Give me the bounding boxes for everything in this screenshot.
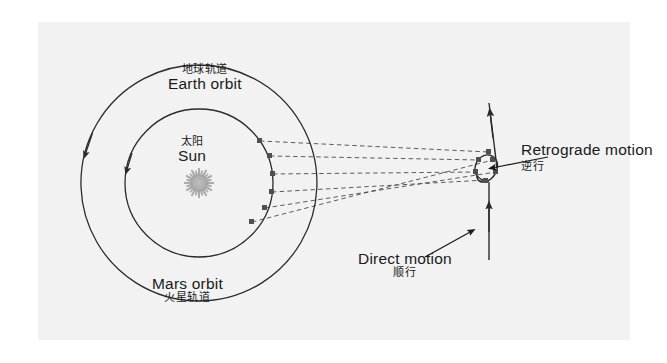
sun-disc-icon bbox=[191, 175, 208, 192]
earth-marker bbox=[269, 189, 274, 194]
sun-label: 太阳 Sun bbox=[178, 136, 206, 164]
retrograde-motion-label-cn: 逆行 bbox=[521, 161, 653, 173]
mars-apparent-marker bbox=[486, 149, 491, 154]
earth-marker bbox=[257, 138, 262, 143]
earth-orbit-label: 地球轨道 Earth orbit bbox=[168, 64, 242, 92]
sun-group bbox=[184, 168, 214, 198]
mars-apparent-marker bbox=[473, 169, 478, 174]
mars-orbit-direction-arrow bbox=[85, 133, 93, 155]
upper-motion-arrow bbox=[490, 112, 493, 138]
earth-marker bbox=[267, 153, 272, 158]
direct-motion-label: Direct motion 顺行 bbox=[358, 251, 452, 279]
sun-label-cn: 太阳 bbox=[178, 136, 206, 148]
mars-apparent-marker bbox=[493, 169, 498, 174]
mars-apparent-marker bbox=[490, 157, 495, 162]
sight-line-3 bbox=[273, 172, 476, 174]
earth-marker bbox=[249, 219, 254, 224]
sun-label-en: Sun bbox=[178, 148, 206, 164]
retrograde-motion-label-en: Retrograde motion bbox=[521, 142, 653, 158]
mars-apparent-marker bbox=[476, 157, 481, 162]
direct-motion-label-en: Direct motion bbox=[358, 251, 452, 267]
earth-marker bbox=[270, 171, 275, 176]
sight-line-2 bbox=[270, 156, 479, 160]
mars-orbit-label: Mars orbit 火星轨道 bbox=[152, 276, 223, 304]
direct-motion-label-cn: 顺行 bbox=[358, 267, 452, 279]
earth-position-markers bbox=[249, 138, 275, 224]
mars-apparent-marker bbox=[483, 178, 488, 183]
sight-lines-group bbox=[252, 141, 496, 222]
earth-orbit-direction-arrow bbox=[127, 153, 133, 171]
earth-marker bbox=[262, 205, 267, 210]
mars-orbit-label-cn: 火星轨道 bbox=[152, 292, 223, 304]
sight-line-1 bbox=[260, 141, 489, 152]
mars-orbit-label-en: Mars orbit bbox=[152, 276, 223, 292]
sight-line-4 bbox=[272, 180, 486, 192]
sight-line-5 bbox=[265, 172, 496, 208]
mars-apparent-path-group bbox=[473, 103, 498, 260]
retrograde-motion-label: Retrograde motion 逆行 bbox=[521, 142, 653, 173]
retrograde-motion-diagram bbox=[0, 0, 667, 363]
earth-orbit-label-en: Earth orbit bbox=[168, 76, 242, 92]
earth-orbit-label-cn: 地球轨道 bbox=[168, 64, 242, 76]
